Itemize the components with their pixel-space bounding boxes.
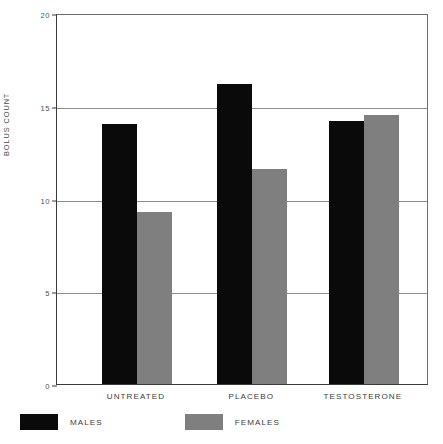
bar-untreated-females	[137, 212, 172, 385]
bar-placebo-males	[217, 84, 252, 385]
legend-item-females: FEMALES	[185, 414, 280, 430]
bolus-count-bar-chart: BOLUS COUNT 05101520 UNTREATED PLACEBO T…	[0, 0, 443, 444]
legend-label-males: MALES	[70, 418, 103, 427]
x-axis-label-untreated: UNTREATED	[107, 392, 165, 401]
bar-testosterone-males	[329, 121, 364, 384]
chart-legend: MALES FEMALES	[20, 414, 280, 430]
x-axis-label-placebo: PLACEBO	[229, 392, 275, 401]
y-tick-mark-5	[52, 293, 57, 294]
bar-testosterone-females	[364, 115, 399, 384]
y-tick-mark-0	[52, 386, 57, 387]
y-tick-label-5: 5	[45, 289, 50, 298]
bar-group-testosterone	[324, 13, 404, 384]
y-tick-label-15: 15	[41, 103, 50, 112]
y-tick-mark-10	[52, 200, 57, 201]
legend-item-males: MALES	[20, 414, 103, 430]
plot-area: 05101520	[56, 14, 428, 385]
x-axis-label-testosterone: TESTOSTERONE	[324, 392, 403, 401]
y-tick-mark-20	[52, 15, 57, 16]
bar-placebo-females	[252, 169, 287, 384]
legend-swatch-females-icon	[185, 414, 223, 430]
y-axis-title: BOLUS COUNT	[2, 26, 11, 156]
bar-group-placebo	[212, 13, 292, 384]
y-tick-label-0: 0	[45, 382, 50, 391]
y-tick-label-20: 20	[41, 11, 50, 20]
y-tick-label-10: 10	[41, 196, 50, 205]
bar-untreated-males	[102, 124, 137, 384]
legend-swatch-males-icon	[20, 414, 58, 430]
bar-group-untreated	[97, 13, 177, 384]
legend-label-females: FEMALES	[235, 418, 280, 427]
y-tick-mark-15	[52, 107, 57, 108]
